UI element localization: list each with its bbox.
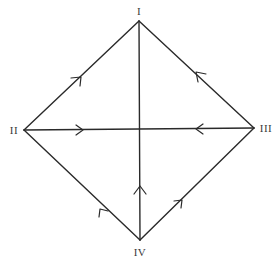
vertex-label-III: III [260,122,273,134]
directed-graph-diagram: I II III IV [0,0,279,260]
edge-vertical-I-IV [139,21,140,240]
vertex-label-I: I [137,5,141,17]
arrow-icon-IV-to-II [99,209,108,217]
vertex-label-IV: IV [134,246,147,258]
vertex-label-II: II [10,124,18,136]
edge-II-I [24,21,139,130]
arrow-icon-IV-to-III [174,200,182,208]
edge-IV-II [24,130,140,240]
arrow-icon-III-to-I [196,72,206,82]
edge-IV-III [140,128,254,240]
